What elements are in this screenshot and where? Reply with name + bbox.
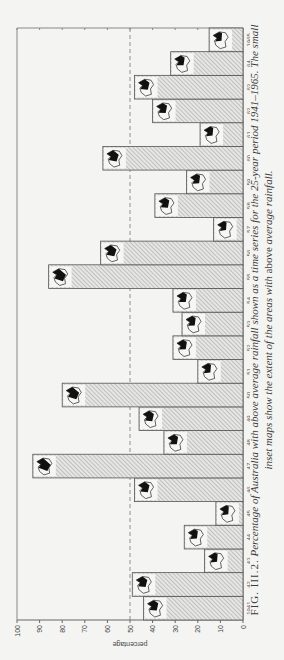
y-tick-label: 10 — [217, 625, 224, 633]
y-tick-label: 30 — [172, 625, 179, 633]
y-axis-title: percentage — [112, 640, 147, 648]
bar-55 — [49, 265, 243, 289]
y-tick-label: 50 — [127, 625, 134, 633]
figure-caption: FIG. III.2. Percentage of Australia with… — [247, 20, 275, 620]
figure-label: FIG. III.2. — [248, 559, 260, 615]
y-tick-label: 80 — [59, 625, 66, 633]
y-tick-label: 70 — [81, 625, 88, 633]
bar-47 — [33, 454, 243, 478]
y-tick-label: 40 — [149, 625, 156, 633]
bar-50 — [62, 383, 243, 407]
caption-text-1: Percentage of Australia with above avera… — [248, 25, 260, 557]
caption-line-2: inset maps show the extent of the areas … — [261, 20, 275, 620]
rotated-figure: 0102030405060708090100percentage19414243… — [0, 0, 284, 660]
caption-text-2b: above — [262, 247, 274, 273]
y-tick-label: 60 — [104, 625, 111, 633]
y-tick-label: 0 — [240, 625, 247, 629]
caption-text-2a: inset maps show the extent of the areas … — [262, 276, 274, 469]
y-tick-label: 90 — [36, 625, 43, 633]
y-tick-label: 20 — [194, 625, 201, 633]
caption-line-1: FIG. III.2. Percentage of Australia with… — [247, 20, 261, 620]
bar-chart: 0102030405060708090100percentage19414243… — [0, 0, 250, 660]
y-tick-label: 100 — [14, 625, 21, 637]
caption-text-2c: average rainfall. — [262, 171, 274, 245]
